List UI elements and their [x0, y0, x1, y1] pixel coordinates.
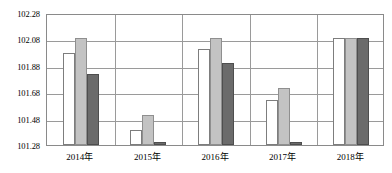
bar-2017年-series-3 — [290, 142, 302, 145]
bar-2017年-series-1 — [266, 100, 278, 145]
bar-chart: 101.28101.48101.68101.88102.08102.28 201… — [0, 0, 392, 173]
x-axis: 2014年2015年2016年2017年2018年 — [46, 148, 384, 170]
y-axis-tick-label: 101.28 — [17, 141, 40, 151]
bar-2016年-series-1 — [198, 49, 210, 145]
y-axis-tick-label: 101.88 — [17, 62, 40, 72]
x-axis-tick-label: 2018年 — [337, 150, 364, 163]
x-axis-tick-label: 2017年 — [269, 150, 296, 163]
bar-2018年-series-3 — [357, 38, 369, 145]
bar-2018年-series-2 — [345, 38, 357, 145]
y-axis-tick-label: 101.68 — [17, 88, 40, 98]
bar-2017年-series-2 — [278, 88, 290, 145]
x-axis-tick-label: 2015年 — [134, 150, 161, 163]
y-axis: 101.28101.48101.68101.88102.08102.28 — [0, 0, 44, 173]
plot-area — [46, 14, 384, 146]
bar-2015年-series-3 — [154, 142, 166, 145]
bar-2015年-series-1 — [130, 130, 142, 145]
bar-2018年-series-1 — [333, 38, 345, 145]
y-axis-tick-label: 102.28 — [17, 9, 40, 19]
x-axis-tick-label: 2014年 — [66, 150, 93, 163]
bar-2014年-series-3 — [87, 74, 99, 145]
bar-2014年-series-2 — [75, 38, 87, 145]
bar-2015年-series-2 — [142, 115, 154, 145]
x-axis-tick-label: 2016年 — [202, 150, 229, 163]
bar-2016年-series-3 — [222, 63, 234, 145]
bar-2014年-series-1 — [63, 53, 75, 145]
y-axis-tick-label: 102.08 — [17, 35, 40, 45]
y-axis-tick-label: 101.48 — [17, 115, 40, 125]
bar-2016年-series-2 — [210, 38, 222, 145]
bars-layer — [47, 15, 383, 145]
